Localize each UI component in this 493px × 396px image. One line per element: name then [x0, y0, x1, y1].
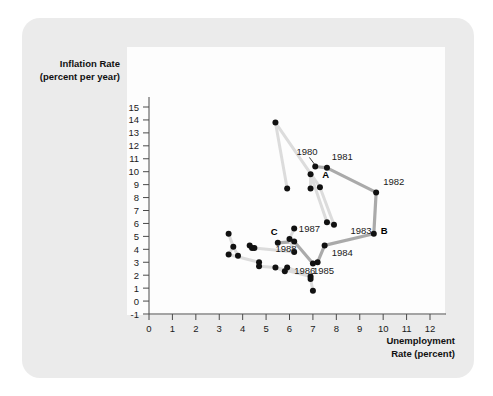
point-year-label: 1984 — [332, 247, 353, 258]
data-point-marker — [308, 171, 314, 177]
y-tick-label: 12 — [128, 140, 139, 151]
y-tick-label: 13 — [128, 127, 139, 138]
point-marker-label: C — [271, 226, 278, 237]
data-point-marker — [308, 276, 314, 282]
label-leader-line — [309, 157, 314, 164]
x-tick-label: 2 — [193, 323, 198, 334]
y-tick-label: 2 — [134, 270, 139, 281]
data-point-marker — [226, 251, 232, 257]
x-tick-label: 6 — [287, 323, 292, 334]
point-marker-label: B — [381, 225, 388, 236]
x-axis-title-line2: Rate (percent) — [391, 348, 455, 359]
data-point-marker — [317, 184, 323, 190]
y-tick-label: 10 — [128, 166, 139, 177]
data-point-marker — [272, 264, 278, 270]
data-point-marker — [308, 186, 314, 192]
data-point-marker — [284, 264, 290, 270]
y-tick-label: 0 — [134, 296, 139, 307]
y-axis-title-line2: (percent per year) — [40, 71, 120, 82]
point-year-label: 1982 — [383, 176, 404, 187]
x-axis-title-line1: Unemployment — [386, 335, 455, 346]
y-tick-label: -1 — [131, 309, 139, 320]
axis-layer: 1514131211109876543210-10123456789101112 — [128, 97, 446, 334]
data-point-marker — [312, 164, 318, 170]
point-year-label: 1985 — [313, 265, 334, 276]
data-point-marker — [331, 222, 337, 228]
y-tick-label: 14 — [128, 114, 139, 125]
x-tick-label: 3 — [217, 323, 222, 334]
y-tick-label: 6 — [134, 218, 139, 229]
data-point-marker — [371, 231, 377, 237]
x-tick-label: 12 — [425, 323, 436, 334]
point-year-label: 1986 — [294, 265, 315, 276]
data-point-marker — [226, 231, 232, 237]
x-tick-label: 11 — [402, 323, 412, 334]
phillips-curve-scatter-chart: 1514131211109876543210-10123456789101112… — [0, 0, 493, 396]
y-tick-label: 11 — [129, 153, 139, 164]
background-connector-line — [229, 254, 259, 262]
point-year-label: 1983 — [350, 225, 371, 236]
y-tick-label: 9 — [134, 179, 139, 190]
x-tick-label: 10 — [378, 323, 389, 334]
x-tick-label: 9 — [357, 323, 362, 334]
data-point-marker — [287, 236, 293, 242]
x-tick-label: 4 — [240, 323, 245, 334]
point-year-label: 1987 — [299, 223, 320, 234]
x-tick-label: 0 — [146, 323, 151, 334]
data-point-marker — [373, 189, 379, 195]
data-point-marker — [322, 242, 328, 248]
y-tick-label: 8 — [134, 192, 139, 203]
x-axis-title: Unemployment Rate (percent) — [386, 335, 455, 359]
annotation-layer: 19801981A19821983B1984198519861987C1988 — [271, 146, 405, 276]
x-tick-label: 7 — [310, 323, 315, 334]
data-point-marker — [235, 253, 241, 259]
data-point-marker — [310, 288, 316, 294]
x-tick-label: 5 — [263, 323, 268, 334]
data-point-marker — [291, 226, 297, 232]
point-marker-label: A — [322, 169, 329, 180]
data-point-marker — [324, 219, 330, 225]
data-point-marker — [230, 244, 236, 250]
data-point-marker — [272, 120, 278, 126]
point-year-label: 1980 — [297, 146, 318, 157]
point-year-label: 1981 — [332, 151, 353, 162]
y-axis-title: Inflation Rate (percent per year) — [40, 58, 120, 82]
data-point-marker — [251, 245, 257, 251]
x-tick-label: 8 — [334, 323, 339, 334]
point-year-label: 1988 — [275, 243, 296, 254]
y-tick-label: 3 — [134, 257, 139, 268]
y-tick-label: 7 — [134, 205, 139, 216]
data-point-marker — [284, 186, 290, 192]
y-tick-label: 4 — [134, 244, 139, 255]
y-tick-label: 1 — [134, 283, 139, 294]
y-axis-title-line1: Inflation Rate — [60, 58, 120, 69]
y-tick-label: 15 — [128, 102, 139, 113]
x-tick-label: 1 — [170, 323, 175, 334]
y-tick-label: 5 — [134, 231, 139, 242]
data-point-marker — [256, 263, 262, 269]
